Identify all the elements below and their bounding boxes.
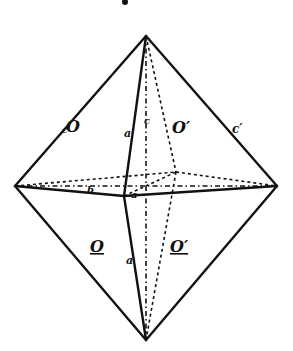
edge-equator-front-left xyxy=(15,186,124,196)
octahedron-diagram: O O′ O O′ c a c c′ a b a xyxy=(0,0,293,351)
edge-bottom-right xyxy=(146,186,277,340)
hidden-edge-top-back xyxy=(146,36,176,172)
face-label-upper-right: O′ xyxy=(172,118,191,137)
top-fragment-mark xyxy=(122,0,128,5)
edge-label-upper-left: c xyxy=(62,125,68,135)
edge-label-back-upper: c xyxy=(144,115,150,126)
edge-label-equator-center: a xyxy=(131,189,137,200)
edge-top-left xyxy=(15,36,146,186)
edge-label-front-lower: a xyxy=(126,254,133,267)
hidden-edge-bottom-back xyxy=(146,172,176,340)
edge-label-front-upper: a xyxy=(124,127,131,140)
edge-top-right xyxy=(146,36,277,186)
edge-label-equator-left: b xyxy=(87,184,94,195)
edge-top-front xyxy=(124,36,146,196)
face-label-upper-left: O xyxy=(66,117,80,136)
face-label-lower-right: O′ xyxy=(170,237,189,256)
hidden-edge-equator-back-right xyxy=(176,172,277,186)
face-label-lower-left: O xyxy=(90,237,104,256)
edge-label-upper-right: c′ xyxy=(232,122,243,136)
edge-equator-front-right xyxy=(124,186,277,196)
